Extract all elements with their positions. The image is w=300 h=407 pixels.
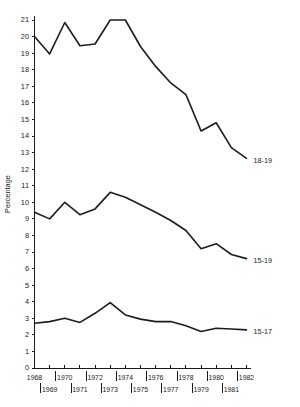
x-tick-label: 1978 — [178, 374, 193, 381]
x-tick-label: 1972 — [87, 374, 102, 381]
y-tick-label: 4 — [25, 297, 29, 306]
x-tick-label: 1969 — [42, 386, 57, 393]
line-chart: 0123456789101112131415161718192021 19681… — [0, 0, 300, 407]
x-tick-label: 1980 — [209, 374, 224, 381]
x-tick-label: 1973 — [103, 386, 118, 393]
y-tick-label: 19 — [21, 49, 29, 58]
y-tick-label: 20 — [21, 32, 29, 41]
y-tick-label: 7 — [25, 247, 29, 256]
x-tick-label: 1971 — [72, 386, 87, 393]
x-axis: 1968196919701971197219731974197519761977… — [27, 365, 254, 393]
series-labels: 18-1915-1915-17 — [254, 156, 272, 337]
x-tick-label: 1979 — [193, 386, 208, 393]
series-line-15-19 — [35, 192, 247, 258]
y-tick-label: 0 — [25, 363, 29, 372]
series-line-15-17 — [35, 303, 247, 332]
y-tick-label: 9 — [25, 214, 29, 223]
y-tick-label: 3 — [25, 314, 29, 323]
y-tick-label: 18 — [21, 65, 29, 74]
y-tick-label: 11 — [21, 181, 29, 190]
y-tick-label: 5 — [25, 281, 29, 290]
x-tick-label: 1977 — [163, 386, 178, 393]
y-tick-label: 6 — [25, 264, 29, 273]
y-tick-label: 16 — [21, 98, 29, 107]
x-tick-label: 1974 — [118, 374, 133, 381]
y-tick-label: 12 — [21, 165, 29, 174]
x-tick-label: 1970 — [57, 374, 72, 381]
series-label-15-19: 15-19 — [254, 256, 272, 265]
y-tick-label: 10 — [21, 198, 29, 207]
x-tick-label: 1981 — [224, 386, 239, 393]
chart-container: 0123456789101112131415161718192021 19681… — [0, 0, 300, 407]
y-tick-label: 15 — [21, 115, 29, 124]
series-label-18-19: 18-19 — [254, 156, 272, 165]
series-label-15-17: 15-17 — [254, 327, 272, 336]
x-tick-label: 1982 — [239, 374, 254, 381]
x-tick-label: 1975 — [133, 386, 148, 393]
y-tick-label: 2 — [25, 330, 29, 339]
y-tick-label: 8 — [25, 231, 29, 240]
y-tick-label: 21 — [21, 15, 29, 24]
y-tick-label: 1 — [25, 347, 29, 356]
y-tick-label: 13 — [21, 148, 29, 157]
x-tick-label: 1976 — [148, 374, 163, 381]
y-axis-title: Percentage — [3, 175, 12, 213]
y-tick-label: 14 — [21, 131, 29, 140]
series-line-18-19 — [35, 20, 247, 158]
y-axis: 0123456789101112131415161718192021 — [21, 15, 35, 372]
series-lines — [35, 20, 247, 332]
y-axis-title-label: Percentage — [3, 175, 12, 213]
y-tick-label: 17 — [21, 82, 29, 91]
x-tick-label: 1968 — [27, 374, 42, 381]
